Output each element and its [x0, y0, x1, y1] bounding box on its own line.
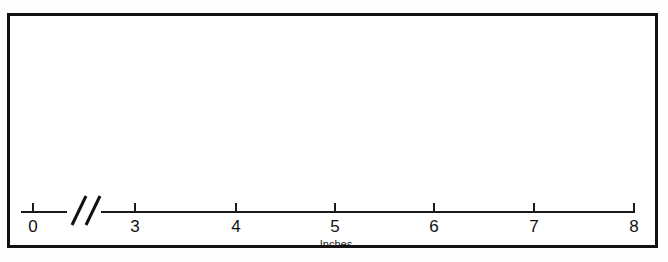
- tick-label-4: 4: [231, 218, 240, 235]
- ruler-figure: 0 3 4 5 6 7 8 Inches: [0, 0, 668, 262]
- axis-break-gap: [67, 202, 101, 223]
- tick-label-7: 7: [529, 218, 538, 235]
- tick-label-3: 3: [130, 218, 139, 235]
- number-line-graphic: [10, 16, 661, 251]
- tick-label-0: 0: [28, 218, 37, 235]
- tick-label-5: 5: [330, 218, 339, 235]
- tick-label-6: 6: [429, 218, 438, 235]
- axis-break-slash-1: [72, 196, 86, 225]
- axis-break-slash-2: [86, 196, 100, 225]
- number-line: [10, 16, 661, 251]
- figure-border: 0 3 4 5 6 7 8 Inches: [7, 13, 658, 248]
- axis-unit-caption: Inches: [320, 239, 352, 250]
- tick-label-8: 8: [629, 218, 638, 235]
